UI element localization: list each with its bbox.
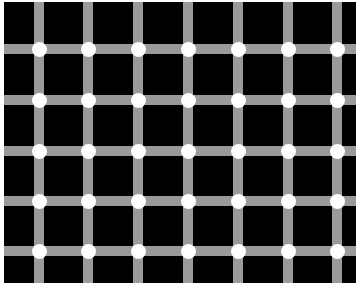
intersection-dot <box>330 93 345 108</box>
intersection-dot <box>32 144 47 159</box>
intersection-dot <box>330 244 345 259</box>
intersection-dot <box>131 194 146 209</box>
intersection-dot <box>181 244 196 259</box>
intersection-dot <box>281 42 296 57</box>
intersection-dot <box>181 144 196 159</box>
intersection-dot <box>181 42 196 57</box>
intersection-dot <box>81 144 96 159</box>
scintillating-grid <box>4 2 356 283</box>
intersection-dot <box>231 93 246 108</box>
intersection-dot <box>32 93 47 108</box>
intersection-dot <box>32 42 47 57</box>
intersection-dot <box>131 144 146 159</box>
intersection-dot <box>81 93 96 108</box>
intersection-dot <box>281 244 296 259</box>
intersection-dot <box>281 93 296 108</box>
intersection-dot <box>81 244 96 259</box>
intersection-dot <box>231 42 246 57</box>
intersection-dot <box>131 244 146 259</box>
intersection-dot <box>231 194 246 209</box>
intersection-dot <box>330 194 345 209</box>
intersection-dot <box>231 144 246 159</box>
intersection-dot <box>32 194 47 209</box>
intersection-dot <box>281 194 296 209</box>
intersection-dot <box>131 42 146 57</box>
intersection-dot <box>330 42 345 57</box>
intersection-dot <box>81 42 96 57</box>
intersection-dot <box>32 244 47 259</box>
intersection-dot <box>231 244 246 259</box>
intersection-dot <box>181 93 196 108</box>
intersection-dot <box>181 194 196 209</box>
intersection-dot <box>281 144 296 159</box>
intersection-dot <box>131 93 146 108</box>
intersection-dot <box>81 194 96 209</box>
intersection-dot <box>330 144 345 159</box>
